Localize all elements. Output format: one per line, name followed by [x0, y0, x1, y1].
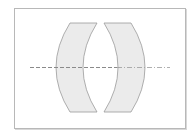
lens-diagram — [0, 0, 194, 137]
